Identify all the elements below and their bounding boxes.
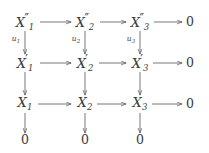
node-base: X [78,95,87,110]
node-base: 0 [21,132,29,147]
node-subscript: 2 [88,63,93,73]
diagram-node-r2c4: 0 [186,57,194,70]
node-subscript: 1 [29,22,34,32]
node-subscript: 3 [142,102,147,112]
diagram-node-r2c2: X′2 [77,54,94,72]
diagram-node-r3c3: X3 [133,96,148,111]
diagram-node-r1c2: X″2 [76,13,94,31]
diagram-node-r4c1: 0 [21,134,29,147]
node-base: X [132,56,141,71]
map-label-subscript: 3 [132,38,136,44]
node-base: X [17,56,26,71]
map-label-subscript: 2 [77,38,81,44]
node-subscript: 1 [28,63,33,73]
node-base: X [133,95,142,110]
node-subscript: 3 [144,22,149,32]
node-base: X [18,95,27,110]
node-subscript: 2 [89,22,94,32]
diagram-node-r1c4: 0 [186,16,194,29]
diagram-node-r3c1: X1 [18,96,33,111]
diagram-node-r1c3: X″3 [131,13,149,31]
diagram-node-r1c1: X″1 [16,13,34,31]
node-base: 0 [136,132,144,147]
diagram-node-r4c3: 0 [136,134,144,147]
node-subscript: 1 [27,102,32,112]
map-label-u1: u1 [12,35,20,44]
map-label-u2: u2 [72,35,80,44]
node-base: 0 [186,96,194,111]
diagram-node-r3c2: X2 [78,96,93,111]
map-label-u3: u3 [127,35,135,44]
diagram-node-r2c1: X′1 [17,54,34,72]
node-base: X [131,15,140,30]
node-base: X [16,15,25,30]
commutative-diagram: X″1X″2X″30X′1X′2X′30X1X2X30000 u1u2u3 [0,0,209,153]
node-base: 0 [186,14,194,29]
diagram-node-r4c2: 0 [81,134,89,147]
map-label-subscript: 1 [17,38,21,44]
node-subscript: 2 [87,102,92,112]
node-base: X [77,56,86,71]
node-base: 0 [81,132,89,147]
node-base: X [76,15,85,30]
node-subscript: 3 [143,63,148,73]
diagram-node-r2c3: X′3 [132,54,149,72]
node-base: 0 [186,55,194,70]
diagram-node-r3c4: 0 [186,98,194,111]
